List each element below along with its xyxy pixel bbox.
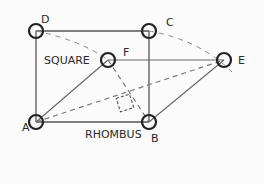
label-f: F xyxy=(123,46,129,59)
label-square: SQUARE xyxy=(44,54,90,67)
diagonal-fb xyxy=(108,60,149,122)
vertex-markers xyxy=(29,24,231,129)
label-d: D xyxy=(41,13,49,26)
label-b: B xyxy=(151,132,159,145)
square-abcd xyxy=(36,31,149,122)
label-rhombus: RHOMBUS xyxy=(85,128,142,141)
label-a: A xyxy=(22,121,30,134)
side-eb xyxy=(149,60,224,122)
right-angle-marker xyxy=(116,94,134,112)
label-c: C xyxy=(166,16,174,29)
side-af xyxy=(36,60,108,122)
diagonal-ae xyxy=(36,60,224,122)
geometry-diagram: A B C D E F SQUARE RHOMBUS xyxy=(0,0,264,184)
diagonals xyxy=(36,60,224,122)
label-e: E xyxy=(238,54,245,67)
